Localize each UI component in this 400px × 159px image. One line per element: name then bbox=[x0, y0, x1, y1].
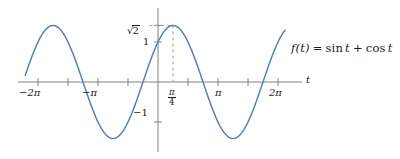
plot-canvas bbox=[0, 0, 400, 159]
y-tick-label-one: 1 bbox=[143, 37, 149, 47]
x-tick-label-neg-2pi: −2π bbox=[19, 88, 40, 98]
y-tick-label-sqrt2: √2 bbox=[127, 21, 140, 37]
trig-function-plot-figure: t −2π −π π 2π π 4 √2 1 −1 f(t)=sint+cost bbox=[0, 0, 400, 159]
function-expression-label: f(t)=sint+cost bbox=[291, 43, 392, 55]
x-tick-label-2pi: 2π bbox=[269, 88, 282, 98]
sin-operator: sin bbox=[326, 41, 344, 55]
x-tick-label-neg-pi: −π bbox=[82, 88, 97, 98]
fraction-denominator: 4 bbox=[168, 98, 176, 107]
square-root-symbol: √2 bbox=[127, 25, 140, 36]
sin-argument: t bbox=[343, 41, 350, 55]
y-tick-label-neg-one: −1 bbox=[133, 108, 148, 118]
fraction-pi-over-4: π 4 bbox=[168, 88, 176, 107]
cos-argument: t bbox=[386, 41, 393, 55]
plus-sign: + bbox=[350, 41, 366, 55]
x-tick-label-pi: π bbox=[215, 88, 222, 98]
function-lhs: f(t) bbox=[291, 41, 310, 55]
x-axis-label: t bbox=[306, 75, 310, 85]
equals-sign: = bbox=[310, 41, 326, 55]
x-tick-label-pi-over-4: π 4 bbox=[168, 88, 176, 107]
cos-operator: cos bbox=[366, 41, 386, 55]
radicand-value: 2 bbox=[132, 25, 139, 36]
